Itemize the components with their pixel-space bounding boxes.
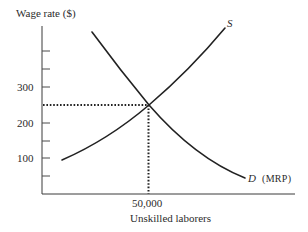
y-axis-title: Wage rate ($) [16,7,76,20]
y-tick-label-300: 300 [17,81,34,93]
y-tick-label-200: 200 [17,117,34,129]
wage-rate-chart: Wage rate ($) 300 200 100 S D (MRP) 50,0… [0,0,308,232]
supply-curve [62,28,225,160]
x-tick-label-50000: 50,000 [132,197,163,209]
x-axis-title: Unskilled laborers [130,212,211,224]
demand-label: D [247,172,256,184]
demand-sublabel: (MRP) [262,173,291,185]
supply-label: S [227,17,233,29]
y-tick-label-100: 100 [17,152,34,164]
y-ticks [42,51,50,176]
